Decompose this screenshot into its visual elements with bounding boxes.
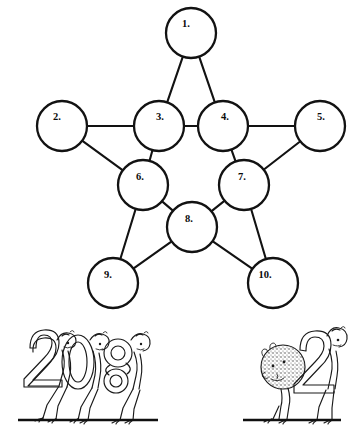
- eye: [337, 339, 340, 342]
- worksheet-page: 1.2.3.4.5.6.7.8.9.10.: [0, 0, 364, 432]
- eye: [283, 361, 286, 364]
- left-group: [18, 330, 158, 424]
- figure-numeral-2-right: [294, 327, 347, 425]
- figure-textured-blob: [261, 343, 305, 424]
- numeral-creature-illustration: [0, 0, 364, 432]
- eye: [272, 365, 275, 368]
- right-group: [243, 327, 347, 425]
- eye: [140, 343, 142, 345]
- figure-numeral-8-left: [104, 332, 150, 425]
- figure-numeral-2-left: [24, 330, 76, 423]
- eye: [99, 343, 101, 345]
